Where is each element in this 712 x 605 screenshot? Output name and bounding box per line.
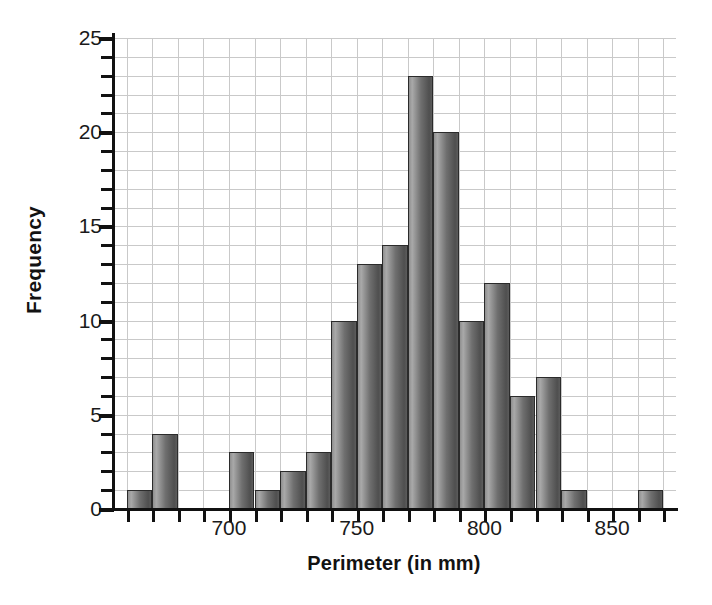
x-axis-minor-tick [433, 509, 436, 522]
y-axis-minor-tick [101, 433, 114, 436]
histogram-bar [459, 321, 485, 509]
x-axis-minor-tick [127, 509, 130, 522]
x-axis-line [112, 508, 678, 511]
histogram-bar [255, 490, 281, 509]
y-axis-minor-tick [101, 489, 114, 492]
gridline-vertical [638, 38, 639, 509]
x-axis-minor-tick [536, 509, 539, 522]
y-axis-tick-label: 10 [56, 309, 102, 333]
y-axis-minor-tick [101, 376, 114, 379]
histogram-bar [152, 434, 178, 509]
y-axis-tick-label: 20 [56, 120, 102, 144]
y-axis-minor-tick [101, 56, 114, 59]
histogram-bar [510, 396, 536, 509]
y-axis-major-tick [99, 320, 114, 324]
x-axis-minor-tick [152, 509, 155, 522]
histogram-bar [433, 132, 459, 509]
histogram-bar [331, 321, 357, 509]
y-axis-major-tick [99, 414, 114, 418]
y-axis-minor-tick [101, 188, 114, 191]
x-axis-minor-tick [663, 509, 666, 522]
y-axis-minor-tick [101, 244, 114, 247]
gridline-vertical [561, 38, 562, 509]
x-axis-minor-tick [331, 509, 334, 522]
gridline-horizontal [114, 170, 676, 171]
gridline-vertical [280, 38, 281, 509]
y-axis-minor-tick [101, 169, 114, 172]
x-axis-minor-tick [382, 509, 385, 522]
x-axis-minor-tick [280, 509, 283, 522]
histogram-bar [357, 264, 383, 509]
x-axis-minor-tick [638, 509, 641, 522]
gridline-vertical [612, 38, 613, 509]
x-axis-major-tick [484, 509, 487, 522]
y-axis-line [112, 33, 115, 511]
y-axis-minor-tick [101, 94, 114, 97]
y-axis-minor-tick [101, 395, 114, 398]
gridline-vertical [663, 38, 664, 509]
plot-area [114, 38, 676, 509]
histogram-bar [382, 245, 408, 509]
y-axis-minor-tick [101, 112, 114, 115]
x-axis-minor-tick [459, 509, 462, 522]
x-axis-minor-tick [178, 509, 181, 522]
gridline-vertical [587, 38, 588, 509]
x-axis-major-tick [357, 509, 360, 522]
histogram-chart: Frequency 0510152025 700750800850 Perime… [0, 0, 712, 605]
y-axis-minor-tick [101, 338, 114, 341]
y-axis-major-tick [99, 131, 114, 135]
y-axis-minor-tick [101, 207, 114, 210]
histogram-bar [638, 490, 664, 509]
y-axis-minor-tick [101, 263, 114, 266]
y-axis-minor-tick [101, 150, 114, 153]
histogram-bar [484, 283, 510, 509]
gridline-vertical [229, 38, 230, 509]
gridline-vertical [127, 38, 128, 509]
histogram-bar [306, 452, 332, 509]
y-axis-title-text: Frequency [22, 206, 46, 314]
y-axis-tick-label: 25 [56, 26, 102, 50]
x-axis-major-tick [229, 509, 232, 522]
gridline-horizontal [114, 38, 676, 39]
histogram-bar [280, 471, 306, 509]
y-axis-tick-label: 15 [56, 214, 102, 238]
y-axis-major-tick [99, 37, 114, 41]
x-axis-minor-tick [408, 509, 411, 522]
gridline-horizontal [114, 151, 676, 152]
gridline-vertical [306, 38, 307, 509]
y-axis-major-tick [99, 225, 114, 229]
y-axis-tick-labels: 0510152025 [50, 0, 102, 605]
x-axis-minor-tick [587, 509, 590, 522]
gridline-vertical [255, 38, 256, 509]
y-axis-tick-label: 0 [56, 497, 102, 521]
y-axis-minor-tick [101, 282, 114, 285]
x-axis-major-tick [612, 509, 615, 522]
gridline-horizontal [114, 208, 676, 209]
x-axis-minor-tick [561, 509, 564, 522]
x-axis-minor-tick [203, 509, 206, 522]
gridline-horizontal [114, 57, 676, 58]
y-axis-minor-tick [101, 451, 114, 454]
x-axis-minor-tick [255, 509, 258, 522]
histogram-bar [408, 76, 434, 509]
y-axis-minor-tick [101, 470, 114, 473]
y-axis-minor-tick [101, 301, 114, 304]
x-axis-minor-tick [510, 509, 513, 522]
histogram-bar [229, 452, 255, 509]
y-axis-title: Frequency [14, 0, 54, 520]
x-axis-minor-tick [306, 509, 309, 522]
gridline-vertical [178, 38, 179, 509]
y-axis-major-tick [99, 508, 114, 512]
gridline-horizontal [114, 113, 676, 114]
y-axis-tick-label: 5 [56, 403, 102, 427]
histogram-bar [536, 377, 562, 509]
y-axis-minor-tick [101, 357, 114, 360]
gridline-vertical [203, 38, 204, 509]
gridline-horizontal [114, 76, 676, 77]
y-axis-minor-tick [101, 75, 114, 78]
gridline-horizontal [114, 95, 676, 96]
gridline-horizontal [114, 189, 676, 190]
gridline-horizontal [114, 132, 676, 133]
gridline-horizontal [114, 226, 676, 227]
histogram-bar [561, 490, 587, 509]
